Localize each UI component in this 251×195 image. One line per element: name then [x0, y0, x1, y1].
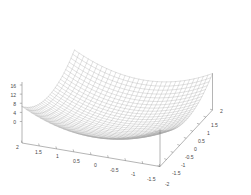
y-tick-label-2: 2 — [220, 109, 223, 114]
y-tick-label-1p5: 1.5 — [211, 123, 218, 128]
y-tick-label-m1p5: -1.5 — [172, 171, 180, 176]
z-tick-label-8: 8 — [3, 102, 16, 107]
x-tick-label-0: 0 — [94, 163, 97, 168]
surface-plot-canvas — [0, 0, 251, 195]
x-tick-label-0p5: 0.5 — [73, 159, 80, 164]
y-tick-label-1: 1 — [207, 131, 210, 136]
x-tick-label-1: 1 — [56, 154, 59, 159]
z-tick-label-16: 16 — [3, 84, 16, 89]
x-tick-label-1p5: 1.5 — [35, 150, 42, 155]
y-tick-label-0p5: 0.5 — [198, 139, 205, 144]
x-tick-label-m1: -1 — [131, 172, 135, 177]
y-tick-label-0: 0 — [194, 147, 197, 152]
z-tick-label-4: 4 — [3, 111, 16, 116]
z-tick-label-12: 12 — [3, 93, 16, 98]
z-tick-label-0: 0 — [3, 120, 16, 125]
x-tick-label-m0p5: -0.5 — [110, 168, 118, 173]
surface-plot-figure: 16 12 8 4 0 2 1.5 1 0.5 0 -0.5 -1 -1.5 -… — [0, 0, 251, 195]
x-tick-label-m2: -2 — [165, 182, 169, 187]
y-tick-label-m0p5: -0.5 — [185, 155, 193, 160]
x-tick-label-m1p5: -1.5 — [147, 177, 155, 182]
x-tick-label-2: 2 — [16, 145, 19, 150]
surface-mesh — [22, 50, 213, 139]
y-tick-label-m1: -1 — [181, 163, 185, 168]
